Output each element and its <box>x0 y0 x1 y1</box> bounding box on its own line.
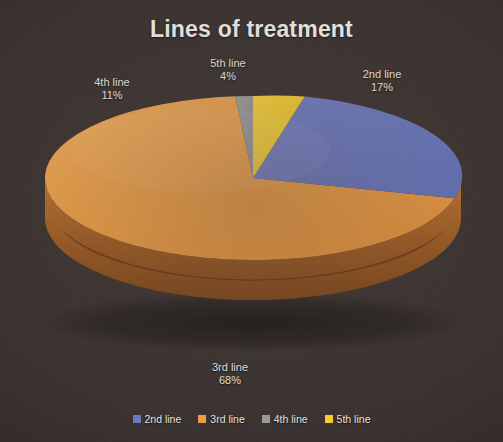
pie-shadow <box>39 292 467 352</box>
legend-item-4th-line[interactable]: 4th line <box>262 413 308 425</box>
legend-swatch-2nd-line <box>133 415 141 423</box>
legend-label-3rd-line: 3rd line <box>210 413 244 425</box>
slice-label-5th-line: 5th line 4% <box>184 57 272 83</box>
legend-item-2nd-line[interactable]: 2nd line <box>133 413 182 425</box>
legend-label-4th-line: 4th line <box>274 413 308 425</box>
pie-chart-screenshot: Lines of treatment <box>0 0 503 442</box>
chart-legend: 2nd line 3rd line 4th line 5th line <box>0 413 503 425</box>
legend-label-2nd-line: 2nd line <box>145 413 182 425</box>
legend-swatch-4th-line <box>262 415 270 423</box>
slice-label-3rd-line-value: 68% <box>176 374 284 387</box>
legend-label-5th-line: 5th line <box>337 413 371 425</box>
chart-title: Lines of treatment <box>0 16 503 43</box>
slice-label-4th-line-value: 11% <box>62 89 162 102</box>
slice-label-2nd-line: 2nd line 17% <box>328 68 436 94</box>
legend-item-5th-line[interactable]: 5th line <box>325 413 371 425</box>
slice-label-4th-line: 4th line 11% <box>62 76 162 102</box>
legend-swatch-3rd-line <box>198 415 206 423</box>
slice-label-4th-line-name: 4th line <box>62 76 162 89</box>
slice-label-5th-line-value: 4% <box>184 70 272 83</box>
legend-item-3rd-line[interactable]: 3rd line <box>198 413 244 425</box>
slice-label-3rd-line-name: 3rd line <box>176 361 284 374</box>
slice-label-5th-line-name: 5th line <box>184 57 272 70</box>
slice-label-3rd-line: 3rd line 68% <box>176 361 284 387</box>
pie-top-sheen <box>70 108 330 192</box>
slice-label-2nd-line-value: 17% <box>328 81 436 94</box>
legend-swatch-5th-line <box>325 415 333 423</box>
slice-label-2nd-line-name: 2nd line <box>328 68 436 81</box>
